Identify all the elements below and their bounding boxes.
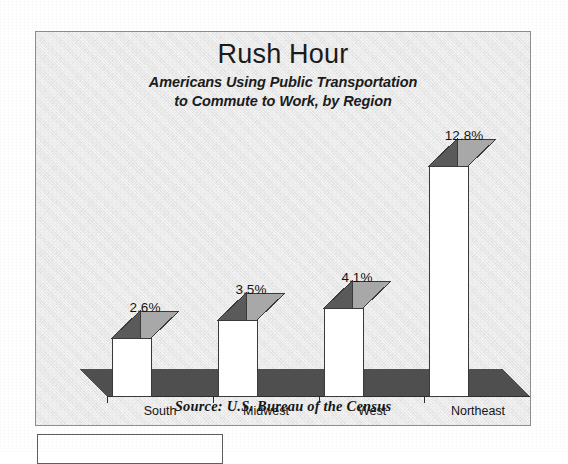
source-attribution: Source: U.S. Bureau of the Census xyxy=(36,398,530,415)
value-label-northeast: 12.8% xyxy=(445,128,483,143)
chart-panel: Rush Hour Americans Using Public Transpo… xyxy=(35,31,531,426)
bar-chart-svg xyxy=(36,32,531,426)
bar-chart-plot: 2.6% 3.5% 4.1% 12.8% South Midwest West … xyxy=(36,32,531,426)
value-label-west: 4.1% xyxy=(342,270,373,285)
value-label-south: 2.6% xyxy=(130,300,161,315)
caption-box xyxy=(37,434,223,464)
value-label-midwest: 3.5% xyxy=(236,282,267,297)
bar-northeast xyxy=(429,139,496,396)
